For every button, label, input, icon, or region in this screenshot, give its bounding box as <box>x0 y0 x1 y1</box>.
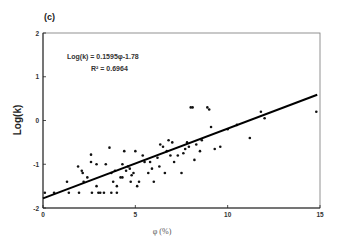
data-point <box>158 165 161 168</box>
x-tick-label: 0 <box>41 211 45 218</box>
data-point <box>90 161 93 164</box>
y-axis-title: Log(k) <box>12 105 23 136</box>
data-point <box>171 141 174 144</box>
data-point <box>167 139 170 142</box>
data-point <box>129 180 132 183</box>
data-point <box>213 148 216 151</box>
data-point <box>188 145 191 148</box>
r-squared-annotation: R² = 0.6964 <box>91 65 128 72</box>
data-point <box>130 174 133 177</box>
data-point <box>151 167 154 170</box>
y-tick-label: 0 <box>35 117 39 124</box>
data-point <box>132 172 135 175</box>
x-axis-title: φ (%) <box>153 227 172 236</box>
y-tick-label: 2 <box>35 30 39 37</box>
data-point <box>149 161 152 164</box>
data-point <box>128 167 131 170</box>
data-point <box>104 163 107 166</box>
data-point <box>116 185 119 188</box>
data-point <box>156 156 159 159</box>
data-point <box>81 172 84 175</box>
data-point <box>86 176 89 179</box>
y-tick-label: -2 <box>33 205 39 212</box>
data-point <box>90 153 93 156</box>
data-point <box>103 191 106 194</box>
data-point <box>182 152 185 155</box>
equation-annotation: Log(k) = 0.1595φ-1.78 <box>67 53 139 61</box>
data-point <box>121 163 124 166</box>
data-point <box>95 163 98 166</box>
x-tick-label: 5 <box>134 211 138 218</box>
data-point <box>123 150 126 153</box>
y-ticks: -2-1012 <box>33 30 46 212</box>
data-point <box>219 145 222 148</box>
data-point <box>134 150 137 153</box>
data-point <box>77 165 80 168</box>
data-point <box>184 148 187 151</box>
data-point <box>164 172 167 175</box>
data-point <box>173 161 176 164</box>
data-point <box>208 108 211 111</box>
data-point <box>153 180 156 183</box>
data-point <box>199 150 202 153</box>
data-point <box>263 117 266 120</box>
data-point <box>99 191 102 194</box>
data-point <box>195 143 198 146</box>
scatter-chart: (c) -2-1012 051015 Log(k) = 0.1595φ-1.78… <box>0 0 339 248</box>
data-point <box>44 191 47 194</box>
x-ticks: 051015 <box>41 205 324 218</box>
data-point <box>162 145 165 148</box>
data-point <box>91 191 94 194</box>
x-tick-label: 15 <box>316 211 324 218</box>
data-point <box>249 137 252 140</box>
data-point <box>138 180 141 183</box>
data-point <box>116 191 119 194</box>
data-point <box>121 176 124 179</box>
y-tick-label: -1 <box>33 161 39 168</box>
data-point <box>210 126 213 129</box>
data-point <box>68 191 71 194</box>
data-point <box>315 110 318 113</box>
x-tick-label: 10 <box>224 211 232 218</box>
data-point <box>193 159 196 162</box>
data-point <box>177 154 180 157</box>
data-point <box>136 185 139 188</box>
data-point <box>112 180 115 183</box>
data-point <box>206 106 209 109</box>
data-points <box>44 106 318 194</box>
data-point <box>110 191 113 194</box>
panel-label: (c) <box>44 12 55 22</box>
data-point <box>159 143 162 146</box>
data-point <box>180 172 183 175</box>
data-point <box>260 110 263 113</box>
data-point <box>191 106 194 109</box>
data-point <box>147 172 150 175</box>
data-point <box>108 146 111 149</box>
data-point <box>66 180 69 183</box>
data-point <box>125 170 128 173</box>
y-tick-label: 1 <box>35 73 39 80</box>
regression-line <box>43 95 317 199</box>
data-point <box>141 154 144 157</box>
data-point <box>78 191 81 194</box>
data-point <box>169 154 172 157</box>
data-point <box>95 185 98 188</box>
